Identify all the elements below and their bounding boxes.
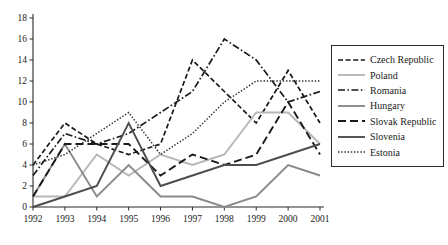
series-line-hungary	[33, 144, 320, 207]
legend-item-czech-republic[interactable]: Czech Republic	[338, 52, 438, 67]
legend-label: Poland	[370, 70, 398, 81]
legend-label: Czech Republic	[370, 54, 434, 65]
y-axis-tick-label: 2	[22, 181, 27, 191]
legend-line-swatch-estonia	[338, 147, 365, 157]
x-axis-tick-label: 1999	[247, 214, 266, 224]
y-axis-tick-label: 14	[18, 55, 28, 65]
series-line-romania	[33, 39, 320, 176]
legend-label: Slovenia	[370, 131, 405, 142]
legend-item-estonia[interactable]: Estonia	[338, 144, 438, 159]
y-axis-tick-label: 4	[22, 160, 27, 170]
series-line-poland	[33, 113, 320, 197]
plot-area: 0246810121416181992199319941995199619971…	[0, 0, 330, 245]
x-axis-tick-label: 1996	[151, 214, 170, 224]
y-axis-tick-label: 18	[18, 13, 28, 23]
x-axis-tick-label: 2001	[311, 214, 330, 224]
y-axis-tick-label: 8	[22, 118, 27, 128]
legend-label: Slovak Republic	[370, 116, 436, 127]
chart-legend: Czech Republic Poland Romania Hungary Sl…	[331, 45, 444, 167]
y-axis-tick-label: 10	[18, 97, 28, 107]
y-axis-tick-label: 6	[22, 139, 27, 149]
legend-line-swatch-slovak-republic	[338, 116, 365, 126]
x-axis-tick-label: 1992	[24, 214, 43, 224]
x-axis-tick-label: 2000	[279, 214, 298, 224]
series-line-slovenia	[33, 123, 320, 207]
legend-line-swatch-slovenia	[338, 132, 365, 142]
chart-canvas: 0246810121416181992199319941995199619971…	[0, 0, 330, 245]
y-axis-tick-label: 0	[22, 202, 27, 212]
line-chart-figure: 0246810121416181992199319941995199619971…	[0, 0, 448, 245]
legend-line-swatch-hungary	[338, 101, 365, 111]
legend-item-hungary[interactable]: Hungary	[338, 98, 438, 113]
x-axis-tick-label: 1995	[119, 214, 138, 224]
x-axis-tick-label: 1993	[55, 214, 74, 224]
x-axis-tick-label: 1998	[215, 214, 234, 224]
legend-label: Estonia	[370, 147, 400, 158]
legend-line-swatch-poland	[338, 70, 365, 80]
legend-line-swatch-romania	[338, 85, 365, 95]
x-axis-tick-label: 1997	[183, 214, 202, 224]
legend-line-swatch-czech-republic	[338, 55, 365, 65]
legend-item-slovak-republic[interactable]: Slovak Republic	[338, 114, 438, 129]
y-axis-tick-label: 12	[18, 76, 28, 86]
y-axis-tick-label: 16	[18, 34, 28, 44]
x-axis-tick-label: 1994	[87, 214, 106, 224]
legend-label: Hungary	[370, 100, 405, 111]
series-line-estonia	[33, 81, 320, 165]
legend-item-poland[interactable]: Poland	[338, 67, 438, 82]
legend-label: Romania	[370, 85, 406, 96]
legend-item-slovenia[interactable]: Slovenia	[338, 129, 438, 144]
legend-item-romania[interactable]: Romania	[338, 83, 438, 98]
